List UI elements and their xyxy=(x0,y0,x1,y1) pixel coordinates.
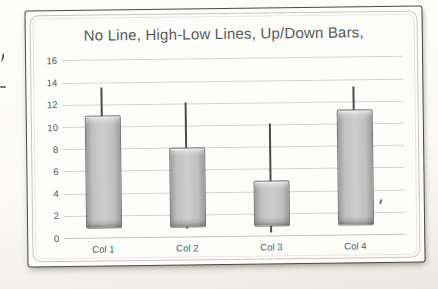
scanned-page: { "page": { "background_color": "#fbfaf7… xyxy=(0,0,438,289)
scan-artifact-mark xyxy=(0,53,5,63)
x-axis-category-label: Col 3 xyxy=(241,241,301,254)
y-axis-tick-label: 6 xyxy=(36,166,58,177)
up-down-bar xyxy=(169,147,206,227)
y-axis-tick-label: 2 xyxy=(37,210,59,221)
y-axis-tick-label: 0 xyxy=(37,233,59,244)
y-axis-tick-label: 14 xyxy=(35,77,57,88)
up-down-bar xyxy=(85,115,122,228)
plot-area: 0246810121416Col 1Col 2Col 3Col 4 xyxy=(25,7,424,267)
y-axis-tick-label: 8 xyxy=(36,144,58,155)
scan-artifact-mark xyxy=(379,199,382,204)
y-axis-tick-label: 4 xyxy=(37,188,59,199)
gridline xyxy=(64,234,405,239)
gridline xyxy=(62,78,403,83)
x-axis-category-label: Col 2 xyxy=(157,242,217,255)
scan-artifact-mark xyxy=(0,86,6,88)
up-down-bar xyxy=(337,109,374,226)
gridline xyxy=(62,56,403,61)
up-down-bar xyxy=(254,180,291,227)
y-axis-tick-label: 16 xyxy=(35,55,57,66)
chart-frame: No Line, High-Low Lines, Up/Down Bars, 0… xyxy=(24,6,425,268)
y-axis-tick-label: 12 xyxy=(36,99,58,110)
x-axis-category-label: Col 4 xyxy=(325,240,385,253)
y-axis-tick-label: 10 xyxy=(36,122,58,133)
x-axis-category-label: Col 1 xyxy=(73,243,133,256)
